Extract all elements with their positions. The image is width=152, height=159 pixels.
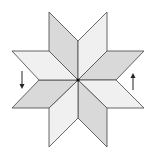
right-up-arrow-icon [131, 73, 136, 90]
star-diagram [0, 0, 152, 159]
star-figure [0, 0, 152, 159]
center-dot [76, 78, 79, 81]
left-down-arrow-icon [20, 71, 25, 89]
